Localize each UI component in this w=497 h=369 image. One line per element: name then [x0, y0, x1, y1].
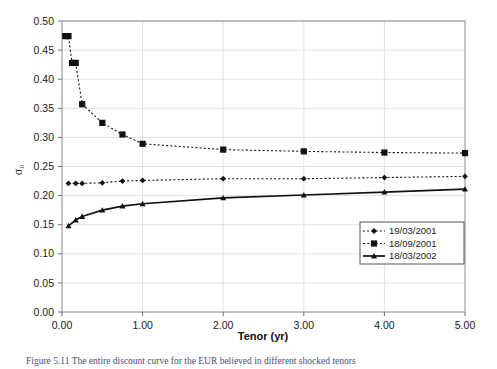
series-1	[66, 173, 468, 186]
data-point-marker	[462, 173, 468, 179]
y-tick-label: 0.35	[34, 102, 55, 114]
legend-label: 18/03/2002	[389, 250, 437, 261]
y-tick-label: 0.20	[34, 189, 55, 201]
x-tick-label: 5.00	[455, 319, 476, 331]
x-axis-title: Tenor (yr)	[238, 330, 289, 342]
y-tick-label: 0.40	[34, 73, 55, 85]
data-point-marker	[220, 147, 226, 153]
y-axis-title: σ₀	[11, 165, 25, 176]
data-point-marker	[65, 33, 71, 39]
y-tick-label: 0.50	[34, 15, 55, 27]
x-tick-label: 4.00	[374, 319, 395, 331]
figure-caption: Figure 5.11 The entire discount curve fo…	[26, 355, 478, 367]
x-tick-label: 1.00	[132, 319, 153, 331]
gridlines-group	[62, 21, 465, 312]
legend-label: 18/09/2001	[389, 238, 437, 249]
y-tick-label: 0.00	[34, 306, 55, 318]
legend-marker	[371, 240, 377, 246]
data-point-marker	[79, 180, 85, 186]
series-line	[68, 176, 465, 183]
x-tick-label: 2.00	[213, 319, 234, 331]
y-tick-label: 0.30	[34, 131, 55, 143]
data-point-marker	[140, 178, 146, 184]
data-point-marker	[79, 101, 85, 107]
figure-container: 0.001.002.003.004.005.00 0.000.050.100.1…	[0, 0, 497, 369]
data-point-marker	[382, 175, 388, 181]
data-point-marker	[381, 149, 387, 155]
data-point-marker	[301, 176, 307, 182]
y-tick-label: 0.45	[34, 44, 55, 56]
data-point-marker	[73, 60, 79, 66]
x-tick-label: 0.00	[52, 319, 73, 331]
data-point-marker	[220, 176, 226, 182]
series-line	[68, 189, 465, 226]
legend-label: 19/03/2001	[389, 225, 437, 236]
y-axis-ticks: 0.000.050.100.150.200.250.300.350.400.45…	[34, 15, 62, 318]
data-point-marker	[462, 150, 468, 156]
y-tick-label: 0.10	[34, 247, 55, 259]
data-point-marker	[66, 180, 72, 186]
data-point-marker	[73, 180, 79, 186]
data-series-group	[62, 33, 468, 228]
chart-plot: 0.001.002.003.004.005.00 0.000.050.100.1…	[0, 0, 497, 350]
data-point-marker	[301, 148, 307, 154]
data-point-marker	[99, 180, 105, 186]
x-axis-ticks: 0.001.002.003.004.005.00	[52, 312, 476, 331]
y-tick-label: 0.15	[34, 218, 55, 230]
data-point-marker	[120, 178, 126, 184]
chart-legend[interactable]: 19/03/200118/09/200118/03/2002	[360, 222, 464, 264]
data-point-marker	[140, 141, 146, 147]
data-point-marker	[119, 131, 125, 137]
y-tick-label: 0.25	[34, 160, 55, 172]
y-tick-label: 0.05	[34, 277, 55, 289]
data-point-marker	[99, 120, 105, 126]
x-tick-label: 3.00	[294, 319, 315, 331]
